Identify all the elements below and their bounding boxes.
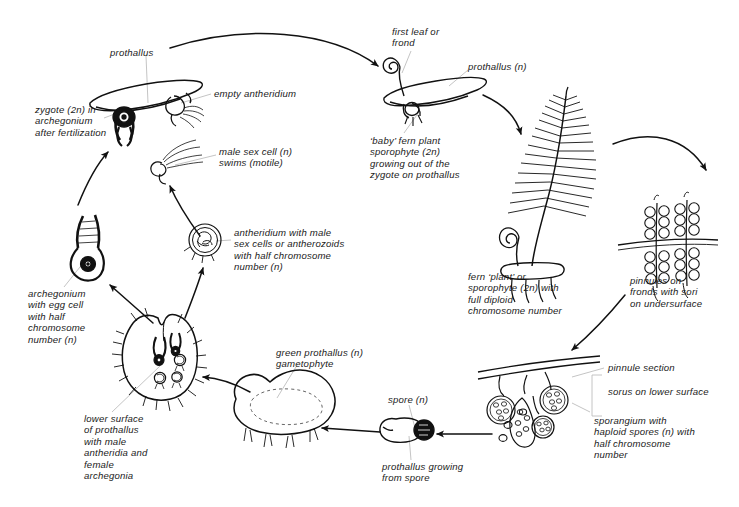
prothallus-archegonium-2 (171, 333, 181, 356)
zygote-in-archegonium (113, 107, 135, 146)
leader-pinnule-section (572, 368, 604, 377)
label-prothallus-growing: prothallus growing from spore (382, 461, 463, 484)
egg-nucleolus (87, 263, 89, 265)
leader-lower-surface (112, 366, 160, 412)
pinnule-tip-right (684, 192, 689, 197)
leader-prothallus-growing (409, 436, 411, 460)
frond-stem (399, 67, 404, 96)
leader-prothallus (146, 56, 148, 103)
label-antheridium: antheridium with male sex cells or anthe… (234, 227, 344, 273)
archegonium-neck-outer-right (95, 215, 99, 248)
archegonium-neck-hatch (78, 221, 98, 243)
green-prothallus (234, 370, 335, 448)
escaping-spores (515, 410, 530, 437)
spores-in-sporangium-3 (537, 421, 550, 432)
zygote-nucleus (122, 115, 126, 119)
sperm-flagella (163, 140, 203, 168)
spores-in-sporangium-1 (493, 402, 508, 420)
prothallus-archegonium-1 (154, 337, 166, 366)
sporangium-2 (540, 386, 568, 414)
label-pinnule-section: pinnule section (608, 362, 675, 373)
baby-prothallus-body (384, 77, 487, 105)
label-spore: spore (n) (388, 394, 428, 405)
arrow-prothallus-to-baby-fern (170, 34, 378, 66)
arrow-baby-fern-to-fern-plant (483, 95, 521, 134)
sporangium-stalk-2 (524, 375, 527, 394)
pinnule-lamina-bottom (478, 362, 600, 379)
spore-2 (499, 435, 507, 442)
leader-antheridium (216, 240, 231, 241)
sporangium-cluster (478, 356, 600, 447)
leader-spore (409, 405, 415, 428)
arrow-pinnules-to-pinnule-section (572, 295, 625, 350)
young-crozier (500, 228, 520, 248)
prothallus-body (90, 80, 203, 110)
sporangium-stalk-4 (533, 396, 539, 414)
label-sorus: sorus on lower surface (608, 386, 709, 397)
fern-life-cycle-diagram: prothallus zygote (2n) in archegonium af… (0, 0, 739, 507)
arrow-green-prothallus-to-heart-prothallus (203, 377, 250, 392)
label-archegonium: archegonium with egg cell with half chro… (28, 288, 86, 345)
prothallus-growing-from-spore (380, 418, 434, 442)
label-sporangium: sporangium with haploid spores (n) with … (594, 415, 695, 461)
antherozoid-coils (197, 232, 212, 247)
pinnule-rachis-2 (618, 244, 718, 250)
label-fern-plant: fern ‘plant’ or sporophyte (2n) with ful… (468, 271, 562, 317)
label-prothallus: prothallus (110, 47, 154, 58)
green-prothallus-inner-dashed (250, 389, 322, 425)
label-lower-surface: lower surface of prothallus with male an… (84, 413, 148, 481)
archegonium-base (117, 127, 122, 146)
bracket-sorus (592, 375, 602, 416)
antheridium-outer (189, 224, 221, 256)
leader-male-sex-cell (175, 155, 216, 165)
frond-crozier (383, 58, 400, 73)
young-prothallus-notch (383, 427, 393, 430)
archegonium-with-egg (71, 215, 104, 281)
arrow-prothallus-to-archegonium (110, 285, 153, 323)
leader-first-leaf (402, 51, 411, 73)
prothallus-with-zygote (90, 80, 203, 110)
label-pinnules: pinnules on fronds with sori on undersur… (630, 275, 702, 309)
label-prothallus-n: prothallus (n) (468, 61, 527, 72)
label-baby-fern: ‘baby’ fern plant sporophyte (2n) growin… (370, 135, 460, 181)
arrow-spore-to-green-prothallus (322, 428, 380, 432)
pinnule-tip-left (654, 195, 659, 200)
label-male-sex-cell: male sex cell (n) swims (motile) (219, 146, 292, 169)
heart-shaped-prothallus (112, 308, 207, 411)
archegonium-base2 (127, 127, 132, 146)
label-empty-antheridium: empty antheridium (214, 88, 296, 99)
spores-in-sporangium-2 (546, 392, 561, 410)
prothallus-antheridium-3 (172, 372, 182, 388)
prothallus-antheridium-2 (154, 372, 165, 389)
arrow-fern-plant-to-pinnules (613, 137, 706, 170)
label-zygote: zygote (2n) in archegonium after fertili… (35, 104, 106, 138)
male-sex-cell (151, 140, 203, 184)
arrow-prothallus-to-antheridium (185, 268, 203, 318)
arrow-antheridium-to-male-cell (170, 186, 200, 236)
empty-antheridium-stalk (171, 114, 176, 126)
label-first-leaf: first leaf or frond (392, 26, 439, 49)
leader-sporangium (572, 403, 590, 412)
antheridium (184, 224, 221, 263)
frond-tip (566, 87, 568, 96)
frond-rachis (532, 96, 566, 266)
antheridium-inner (193, 228, 218, 253)
label-green-prothallus: green prothallus (n) gametophyte (276, 347, 363, 370)
frond-pinnae-right (544, 96, 596, 216)
arrow-male-cell-to-zygote (78, 152, 108, 205)
sporangium-stalk-1 (499, 376, 504, 396)
prothallus-antheridium-1 (174, 354, 185, 371)
sperm-coil (151, 162, 166, 176)
pinnule-midrib-right (686, 200, 687, 286)
